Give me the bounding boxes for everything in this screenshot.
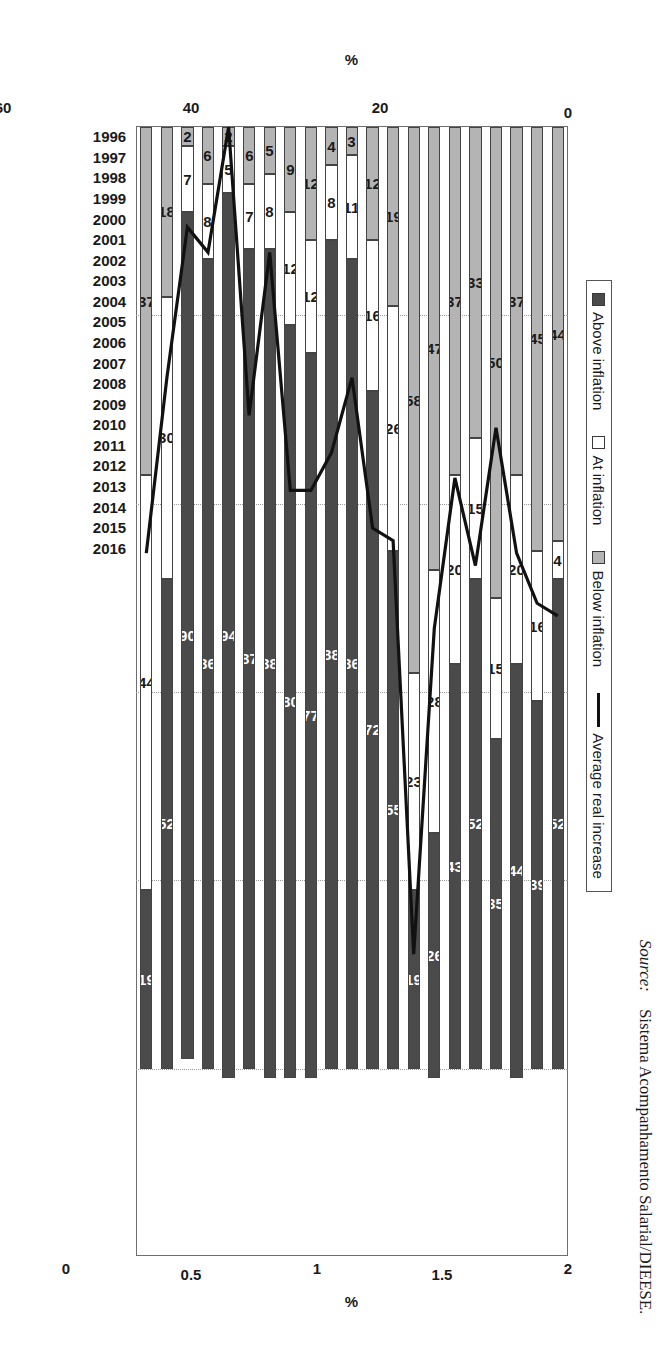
bar-value-label: 88: [264, 656, 276, 671]
primary-y-tick-label: 40: [183, 99, 200, 116]
bar-segment-above-inflation: 52: [161, 579, 173, 1069]
bar-value-label: 5: [224, 162, 233, 177]
bar-value-label: 30: [161, 430, 173, 445]
bar-segment-below-inflation: 37: [449, 127, 461, 475]
bar-segment-above-inflation: 80: [284, 325, 296, 1078]
category-label-text: 2016: [93, 539, 126, 556]
bar-segment-at-inflation: 44: [140, 475, 152, 889]
bar-segment-below-inflation: 2: [222, 127, 234, 146]
bar-segment-at-inflation: 12: [305, 240, 317, 353]
bar-segment-below-inflation: 37: [140, 127, 152, 475]
bar-value-label: 3: [348, 134, 357, 149]
bar-value-label: 6: [204, 148, 213, 163]
bar-segment-below-inflation: 33: [469, 127, 481, 438]
bar-value-label: 37: [449, 294, 461, 309]
bar-row: 4888: [325, 127, 337, 1255]
bar-segment-above-inflation: 90: [181, 212, 193, 1060]
bar-segment-below-inflation: 50: [490, 127, 502, 598]
primary-y-tick-label: 60: [0, 99, 11, 116]
bar-value-label: 6: [245, 148, 254, 163]
bar-value-label: 15: [469, 501, 481, 516]
primary-y-tick: 20: [371, 99, 388, 116]
bar-value-label: 18: [161, 204, 173, 219]
bar-value-label: 86: [202, 656, 214, 671]
bar-row: 472826: [428, 127, 440, 1255]
average-real-increase-line-icon: [598, 693, 601, 727]
bar-value-label: 77: [305, 708, 317, 723]
bar-value-label: 37: [510, 294, 522, 309]
bar-segment-above-inflation: 86: [202, 259, 214, 1069]
bar-segment-below-inflation: 3: [346, 127, 358, 155]
bar-segment-at-inflation: 16: [531, 551, 543, 702]
legend-label-at-inflation: At inflation: [591, 455, 608, 525]
bar-value-label: 23: [408, 774, 420, 789]
bar-value-label: 58: [408, 393, 420, 408]
bar-value-label: 9: [286, 162, 295, 177]
secondary-y-tick: 1.5: [434, 1264, 451, 1285]
bar-row: 501535: [490, 127, 502, 1255]
bar-segment-at-inflation: 8: [264, 174, 276, 249]
bar-segment-above-inflation: 39: [531, 701, 543, 1068]
legend-item-average-real-increase: Average real increase: [591, 693, 608, 879]
bar-series-container: 4445245163937204450153533155237204347282…: [136, 127, 568, 1255]
bar-value-label: 16: [531, 619, 543, 634]
source-label: Source:: [636, 940, 655, 992]
bar-segment-at-inflation: 20: [449, 475, 461, 663]
secondary-y-tick-label: 1: [313, 1260, 321, 1277]
secondary-y-tick-label: 2: [564, 1260, 572, 1277]
bar-value-label: 55: [387, 802, 399, 817]
below-inflation-swatch-icon: [593, 551, 606, 564]
bar-value-label: 44: [140, 675, 152, 690]
bar-value-label: 52: [161, 816, 173, 831]
bar-segment-below-inflation: 12: [366, 127, 378, 240]
bar-segment-at-inflation: 16: [366, 240, 378, 391]
bar-row: 2790: [181, 127, 193, 1255]
bar-value-label: 80: [284, 694, 296, 709]
primary-y-axis-title: %: [136, 46, 568, 74]
bar-value-label: 33: [469, 275, 481, 290]
secondary-y-tick: 2: [560, 1264, 577, 1272]
bar-row: 31186: [346, 127, 358, 1255]
bar-segment-at-inflation: 4: [552, 541, 564, 579]
bar-value-label: 7: [245, 209, 254, 224]
bar-segment-above-inflation: 26: [428, 833, 440, 1078]
bar-segment-above-inflation: 88: [325, 240, 337, 1069]
bar-value-label: 12: [366, 176, 378, 191]
bar-segment-above-inflation: 44: [510, 664, 522, 1078]
legend-label-below-inflation: Below inflation: [591, 570, 608, 667]
bar-segment-below-inflation: 47: [428, 127, 440, 570]
chart-legend: Above inflation At inflation Below infla…: [586, 280, 612, 892]
bar-segment-below-inflation: 5: [264, 127, 276, 174]
bar-segment-above-inflation: 52: [552, 579, 564, 1069]
bar-value-label: 20: [449, 562, 461, 577]
bar-row: 44452: [552, 127, 564, 1255]
bar-segment-above-inflation: 86: [346, 259, 358, 1069]
bar-value-label: 28: [428, 694, 440, 709]
bar-segment-above-inflation: 55: [387, 551, 399, 1069]
bar-row: 192655: [387, 127, 399, 1255]
source-text: Sistema Acompanhamento Salarial/DIEESE.: [636, 1009, 655, 1314]
bar-segment-at-inflation: 15: [490, 598, 502, 739]
bar-segment-below-inflation: 6: [243, 127, 255, 184]
bar-row: 183052: [161, 127, 173, 1255]
bar-row: 2594: [222, 127, 234, 1255]
bar-segment-at-inflation: 28: [428, 570, 440, 834]
bar-segment-at-inflation: 8: [325, 165, 337, 240]
bar-value-label: 15: [490, 661, 502, 676]
bar-value-label: 2: [183, 129, 192, 144]
rotated-figure-stage: Above inflation At inflation Below infla…: [0, 0, 668, 1368]
bar-value-label: 86: [346, 656, 358, 671]
bar-segment-below-inflation: 12: [305, 127, 317, 240]
bar-segment-below-inflation: 58: [408, 127, 420, 673]
bar-value-label: 19: [387, 209, 399, 224]
bar-value-label: 87: [243, 652, 255, 667]
secondary-y-tick: 0.5: [183, 1264, 200, 1285]
bar-row: 374419: [140, 127, 152, 1255]
category-label-2016: 2016: [101, 531, 132, 564]
bar-segment-at-inflation: 8: [202, 184, 214, 259]
bar-segment-above-inflation: 19: [140, 890, 152, 1069]
bar-segment-at-inflation: 20: [510, 475, 522, 663]
bar-row: 582319: [408, 127, 420, 1255]
bar-segment-above-inflation: 35: [490, 739, 502, 1069]
bar-segment-at-inflation: 7: [243, 184, 255, 250]
